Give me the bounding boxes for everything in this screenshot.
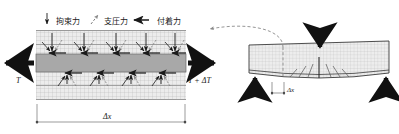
tension-label-left: T [16,76,21,85]
dimension-label: Δx [102,112,112,121]
dimension-label: Δx [286,86,295,94]
dim-tick-right [283,92,285,94]
rebar-band [36,54,186,72]
legend-label-bond: 付着力 [157,16,181,26]
tension-label-right: T + ΔT [188,76,211,85]
engineering-diagram: 拘束力 支圧力 付着力 [0,0,399,134]
legend-label-bearing: 支圧力 [104,16,128,26]
dim-tick-left [36,121,39,124]
legend-label-restraint: 拘束力 [56,16,80,26]
figure-root: 拘束力 支圧力 付着力 [0,0,399,134]
dim-tick-right [184,121,187,124]
dim-tick-left [271,92,273,94]
